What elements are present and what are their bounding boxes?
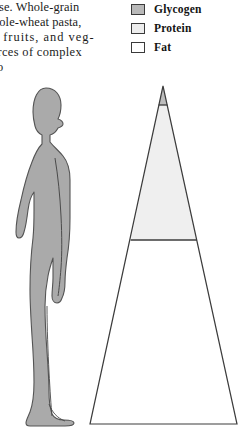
figure-illustration xyxy=(0,0,242,434)
protein-segment xyxy=(131,105,197,240)
human-body-profile-icon xyxy=(16,88,74,426)
figure-canvas xyxy=(0,0,242,434)
human-body-silhouette-path xyxy=(16,88,74,426)
body-composition-pyramid xyxy=(90,86,237,424)
figure-page: se. Whole-grain hole-wheat pasta, , frui… xyxy=(0,0,242,434)
